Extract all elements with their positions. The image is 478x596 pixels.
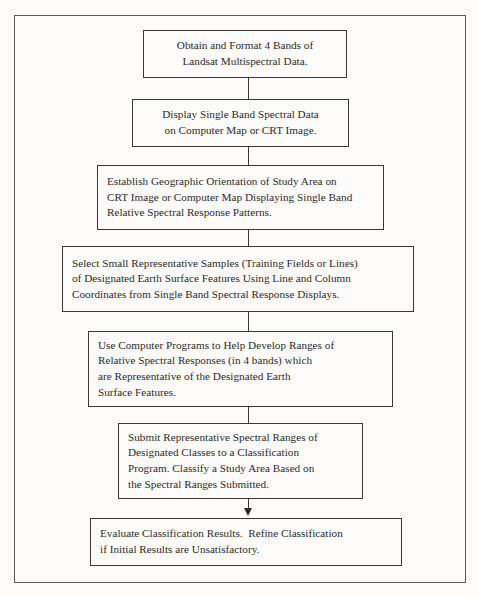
node-5-line-3: are Representative of the Designated Ear… xyxy=(98,369,291,385)
node-7-line-1: Evaluate Classification Results. Refine … xyxy=(100,526,343,542)
node-5-line-1: Use Computer Programs to Help Develop Ra… xyxy=(98,338,334,354)
process-box-select-representative-samples: Select Small Representative Samples (Tra… xyxy=(62,246,414,312)
node-3-line-2: CRT Image or Computer Map Displaying Sin… xyxy=(107,190,352,206)
connector-4-to-5 xyxy=(248,312,249,331)
process-box-develop-spectral-ranges: Use Computer Programs to Help Develop Ra… xyxy=(88,331,393,407)
node-4-line-2: of Designated Earth Surface Features Usi… xyxy=(72,271,351,287)
process-box-obtain-format-bands: Obtain and Format 4 Bands of Landsat Mul… xyxy=(143,30,347,78)
node-4-line-3: Coordinates from Single Band Spectral Re… xyxy=(72,287,339,303)
node-4-line-1: Select Small Representative Samples (Tra… xyxy=(72,256,358,272)
node-6-line-4: the Spectral Ranges Submitted. xyxy=(128,477,269,493)
node-6-line-3: Program. Classify a Study Area Based on xyxy=(128,461,314,477)
process-box-evaluate-classification-results: Evaluate Classification Results. Refine … xyxy=(90,518,402,566)
process-box-display-single-band: Display Single Band Spectral Data on Com… xyxy=(132,99,349,147)
node-3-line-1: Establish Geographic Orientation of Stud… xyxy=(107,174,337,190)
node-1-line-1: Obtain and Format 4 Bands of xyxy=(177,38,313,54)
node-6-line-2: Designated Classes to a Classification xyxy=(128,445,299,461)
node-7-line-2: if Initial Results are Unsatisfactory. xyxy=(100,542,259,558)
node-3-line-3: Relative Spectral Response Patterns. xyxy=(107,205,272,221)
process-box-establish-geographic-orientation: Establish Geographic Orientation of Stud… xyxy=(97,165,384,230)
node-2-line-1: Display Single Band Spectral Data xyxy=(162,107,319,123)
connector-5-to-6 xyxy=(248,407,249,423)
arrowhead-to-node-7 xyxy=(244,508,252,516)
node-5-line-2: Relative Spectral Responses (in 4 bands)… xyxy=(98,353,312,369)
node-1-line-2: Landsat Multispectral Data. xyxy=(182,54,307,70)
connector-3-to-4 xyxy=(248,230,249,246)
connector-2-to-3 xyxy=(248,147,249,165)
node-6-line-1: Submit Representative Spectral Ranges of xyxy=(128,430,318,446)
flowchart-page: Obtain and Format 4 Bands of Landsat Mul… xyxy=(0,0,478,596)
connector-1-to-2 xyxy=(248,78,249,99)
node-2-line-2: on Computer Map or CRT Image. xyxy=(165,123,317,139)
node-5-line-4: Surface Features. xyxy=(98,385,176,401)
process-box-submit-spectral-ranges: Submit Representative Spectral Ranges of… xyxy=(118,423,363,499)
